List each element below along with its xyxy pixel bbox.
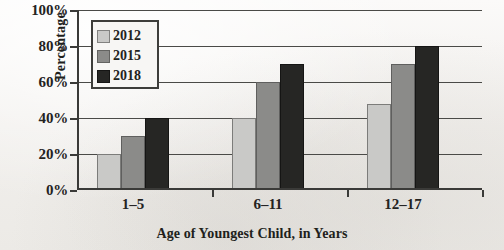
x-tick-label: 6–11 <box>253 196 282 213</box>
y-tick <box>70 82 77 84</box>
x-tick <box>212 190 214 197</box>
x-tick-label: 12–17 <box>384 196 422 213</box>
legend: 201220152018 <box>91 20 159 89</box>
y-tick <box>70 10 77 12</box>
legend-swatch-2012 <box>97 30 110 43</box>
y-tick <box>70 46 77 48</box>
y-tick-label: 80% <box>39 38 68 55</box>
y-tick-label: 40% <box>39 110 68 127</box>
y-tick-label: 100% <box>31 2 68 19</box>
legend-item-2015: 2015 <box>97 46 154 66</box>
y-tick <box>70 190 77 192</box>
legend-label: 2018 <box>113 69 141 83</box>
y-axis-tick-labels: 0%20%40%60%80%100% <box>0 10 68 190</box>
y-tick-label: 60% <box>39 74 68 91</box>
legend-item-2018: 2018 <box>97 66 154 86</box>
legend-swatch-2018 <box>97 70 110 83</box>
legend-label: 2015 <box>113 49 141 63</box>
legend-item-2012: 2012 <box>97 26 154 46</box>
x-tick <box>482 190 484 197</box>
x-axis-title: Age of Youngest Child, in Years <box>0 226 504 242</box>
bar-chart-figure: Percentage 0%20%40%60%80%100% 1–56–1112–… <box>0 0 504 250</box>
x-tick-label: 1–5 <box>122 196 145 213</box>
x-tick <box>347 190 349 197</box>
legend-label: 2012 <box>113 29 141 43</box>
y-tick <box>70 118 77 120</box>
y-tick-label: 20% <box>39 146 68 163</box>
y-tick-label: 0% <box>46 182 68 199</box>
legend-swatch-2015 <box>97 50 110 63</box>
y-tick <box>70 154 77 156</box>
